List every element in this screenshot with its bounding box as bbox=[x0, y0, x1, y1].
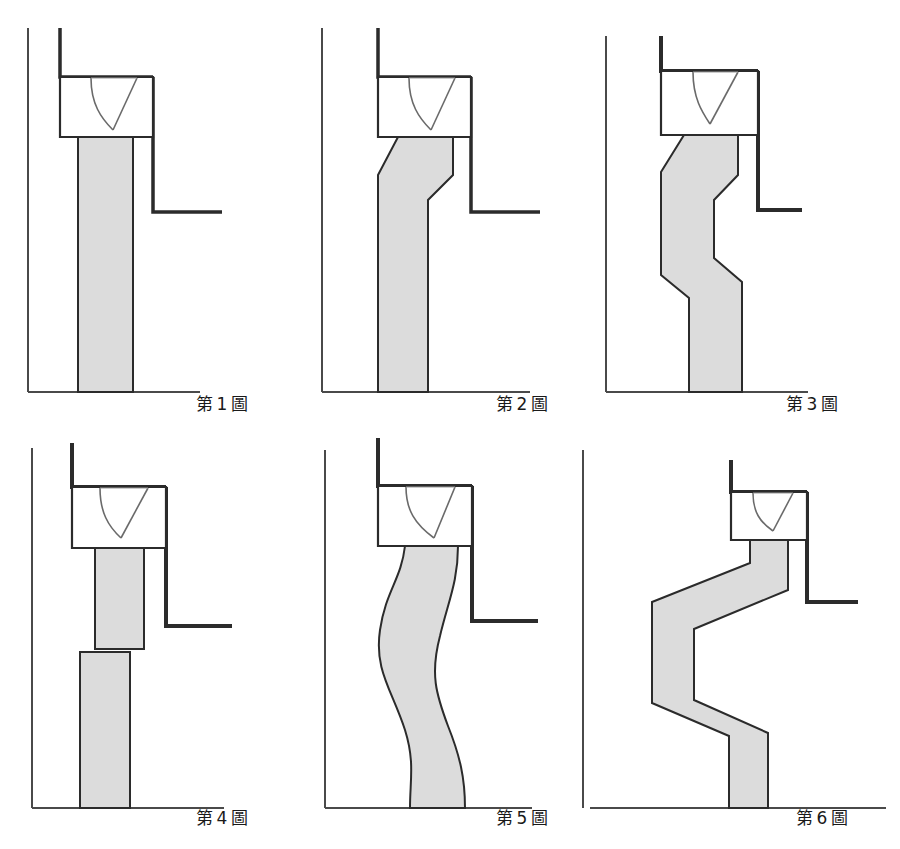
caption-prefix: 第 bbox=[196, 394, 215, 414]
figure-3: 第3圖 bbox=[590, 0, 900, 400]
column-shaft-upper bbox=[95, 548, 144, 649]
figure-3-caption: 第3圖 bbox=[786, 396, 839, 413]
figure-4: 第4圖 bbox=[0, 430, 300, 849]
inner-wall-right bbox=[472, 486, 538, 621]
inner-wall-right bbox=[807, 492, 858, 602]
caption-number: 2 bbox=[515, 394, 531, 414]
figure-4-caption: 第4圖 bbox=[196, 810, 249, 827]
inner-wall-left bbox=[661, 36, 758, 71]
column-shaft bbox=[379, 546, 465, 808]
head-box bbox=[72, 487, 166, 548]
figure-1-drawing bbox=[0, 0, 300, 400]
caption-number: 4 bbox=[215, 808, 231, 828]
column-shaft bbox=[661, 135, 742, 392]
figure-6-caption: 第6圖 bbox=[796, 810, 849, 827]
inner-wall-left bbox=[731, 460, 807, 492]
caption-suffix: 圖 bbox=[231, 394, 250, 414]
drawing-sheet: 第1圖 第2圖 bbox=[0, 0, 900, 849]
head-box bbox=[378, 486, 472, 546]
caption-suffix: 圖 bbox=[531, 808, 550, 828]
figure-3-drawing bbox=[590, 0, 900, 400]
caption-prefix: 第 bbox=[196, 808, 215, 828]
caption-number: 1 bbox=[215, 394, 231, 414]
figure-5-drawing bbox=[300, 430, 600, 849]
head-box bbox=[731, 492, 807, 540]
caption-prefix: 第 bbox=[796, 808, 815, 828]
caption-suffix: 圖 bbox=[821, 394, 840, 414]
caption-suffix: 圖 bbox=[531, 394, 550, 414]
column-shaft bbox=[378, 137, 453, 392]
inner-wall-left bbox=[378, 438, 472, 486]
caption-prefix: 第 bbox=[496, 394, 515, 414]
head-box bbox=[378, 77, 471, 137]
inner-wall-left bbox=[378, 28, 471, 77]
inner-wall-left bbox=[72, 443, 166, 487]
column-shaft bbox=[652, 540, 788, 808]
column-shaft-lower bbox=[80, 652, 130, 808]
figure-6: 第6圖 bbox=[590, 430, 900, 849]
caption-suffix: 圖 bbox=[231, 808, 250, 828]
figure-1: 第1圖 bbox=[0, 0, 300, 400]
caption-suffix: 圖 bbox=[831, 808, 850, 828]
figure-2-caption: 第2圖 bbox=[496, 396, 549, 413]
inner-wall-left bbox=[60, 28, 153, 77]
column-shaft bbox=[78, 137, 133, 392]
figure-4-drawing bbox=[0, 430, 300, 849]
inner-wall-right bbox=[758, 71, 802, 210]
caption-number: 3 bbox=[805, 394, 821, 414]
figure-1-caption: 第1圖 bbox=[196, 396, 249, 413]
figure-5: 第5圖 bbox=[300, 430, 600, 849]
inner-wall-right bbox=[166, 487, 232, 626]
figure-5-caption: 第5圖 bbox=[496, 810, 549, 827]
caption-prefix: 第 bbox=[496, 808, 515, 828]
caption-prefix: 第 bbox=[786, 394, 805, 414]
inner-wall-right bbox=[471, 77, 540, 212]
figure-2-drawing bbox=[300, 0, 600, 400]
caption-number: 5 bbox=[515, 808, 531, 828]
head-box bbox=[661, 71, 758, 135]
caption-number: 6 bbox=[815, 808, 831, 828]
head-box bbox=[60, 77, 153, 137]
figure-2: 第2圖 bbox=[300, 0, 600, 400]
inner-wall-right bbox=[153, 77, 222, 212]
figure-6-drawing bbox=[590, 430, 900, 849]
